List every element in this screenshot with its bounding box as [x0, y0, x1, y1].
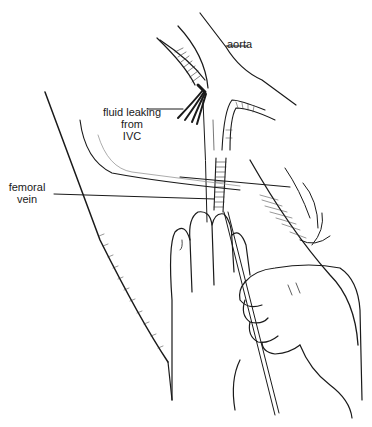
label-fluid-leaking-from-ivc: fluid leaking from IVC	[96, 106, 168, 142]
label-fluid-line2: from	[96, 118, 168, 130]
right-hand	[233, 265, 362, 418]
label-fluid-line1: fluid leaking	[96, 106, 168, 118]
label-femoral-line2: vein	[2, 193, 52, 205]
femoral-vein-tube	[214, 158, 226, 212]
medical-illustration: aorta fluid leaking from IVC femoral vei…	[0, 0, 372, 427]
femoral-leader-line	[54, 194, 214, 199]
label-femoral-vein: femoral vein	[2, 181, 52, 205]
ivc-vessel	[157, 26, 208, 92]
left-hand	[171, 212, 250, 400]
aorta-vessel	[160, 13, 296, 105]
label-femoral-line1: femoral	[2, 181, 52, 193]
right-body-outline	[250, 160, 358, 345]
line-drawing	[0, 0, 372, 427]
label-fluid-line3: IVC	[96, 130, 168, 142]
vein-branch	[222, 100, 275, 150]
label-aorta: aorta	[227, 38, 252, 50]
fluid-leak-streaks	[178, 90, 206, 124]
